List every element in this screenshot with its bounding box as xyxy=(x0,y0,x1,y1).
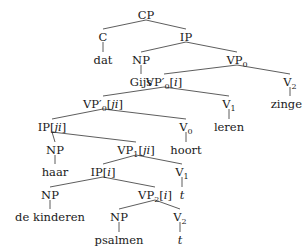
tree-leaf-word: leren xyxy=(214,120,245,134)
tree-leaf-word: psalmen xyxy=(95,233,145,247)
tree-node-label: VP1[ji] xyxy=(116,143,154,159)
tree-node-label: V0 xyxy=(178,120,192,136)
tree-node-label: V1 xyxy=(221,97,235,113)
tree-leaf-word: zingen xyxy=(271,97,302,111)
tree-node-label: CP xyxy=(138,8,155,22)
tree-node-label: VP2[i] xyxy=(137,188,172,204)
tree-leaf-word: t xyxy=(178,233,183,247)
tree-leaf-word: hoort xyxy=(170,143,202,157)
tree-leaf-word: dat xyxy=(94,53,113,67)
tree-nodes: CPCdatIPNPGijsVP0VP′0[i]V2zingenVP′0[ji]… xyxy=(15,8,302,247)
tree-node-label: NP xyxy=(132,53,150,67)
tree-leaf-word: haar xyxy=(42,165,69,179)
tree-node-label: NP xyxy=(41,188,59,202)
tree-node-label: V1 xyxy=(174,165,188,181)
tree-node-label: V2 xyxy=(282,75,296,91)
tree-node-label: VP0 xyxy=(225,53,247,69)
tree-leaf-word: t xyxy=(180,188,185,202)
tree-node-label: NP xyxy=(46,143,64,157)
tree-edge xyxy=(186,42,237,52)
tree-node-label: IP[ji] xyxy=(38,120,67,134)
tree-node-label: NP xyxy=(110,210,128,224)
syntax-tree-diagram: CPCdatIPNPGijsVP0VP′0[i]V2zingenVP′0[ji]… xyxy=(0,0,302,249)
tree-node-label: C xyxy=(99,30,108,44)
tree-node-label: VP′0[ji] xyxy=(82,97,123,113)
tree-node-label: IP[i] xyxy=(91,165,116,179)
tree-node-label: VP′0[i] xyxy=(145,75,182,91)
tree-node-label: IP xyxy=(180,30,193,44)
tree-node-label: V2 xyxy=(172,210,186,226)
tree-leaf-word: de kinderen xyxy=(15,210,85,224)
